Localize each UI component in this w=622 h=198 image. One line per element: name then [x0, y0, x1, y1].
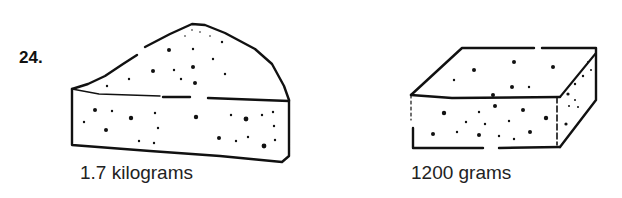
cheese-wedge-illustration	[72, 24, 289, 162]
cheese-wedge-weight-label: 1.7 kilograms	[80, 162, 193, 184]
cheese-block-illustration	[411, 48, 596, 148]
cheese-block-weight-label: 1200 grams	[411, 162, 511, 184]
